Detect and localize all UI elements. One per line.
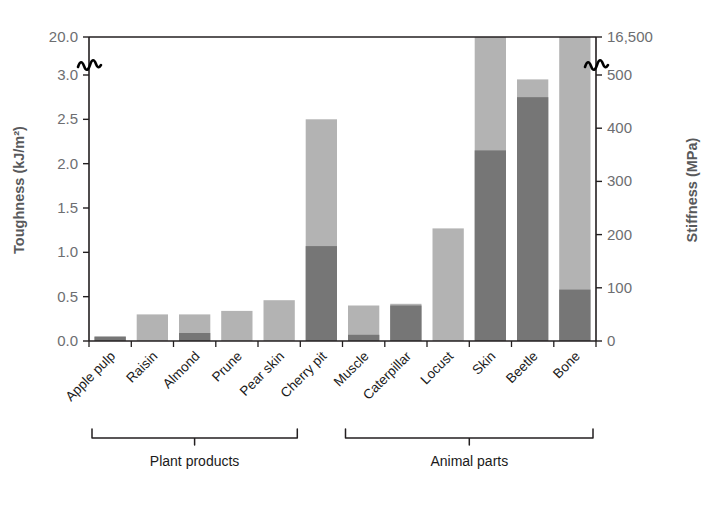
bar-toughness: [559, 290, 590, 341]
y-axis-tick-label: 2.5: [57, 110, 78, 127]
y-axis-tick-label: 0.0: [57, 332, 78, 349]
y2-axis-tick-label: 300: [607, 172, 632, 189]
y-axis-label: Toughness (kJ/m²): [11, 126, 27, 254]
bar-stiffness: [221, 311, 252, 341]
group-label: Plant products: [150, 453, 240, 469]
bar-toughness: [306, 246, 337, 341]
bar-toughness: [517, 97, 548, 341]
bar-toughness: [348, 335, 379, 341]
y-axis-tick-label: 3.0: [57, 66, 78, 83]
y2-axis-tick-label: 200: [607, 226, 632, 243]
y-axis-tick-label: 1.5: [57, 199, 78, 216]
bar-stiffness: [433, 228, 464, 341]
group-label: Animal parts: [430, 453, 508, 469]
bar-stiffness: [137, 314, 168, 341]
bar-toughness: [179, 333, 210, 341]
bar-toughness: [390, 306, 421, 342]
y-axis-tick-label: 20.0: [49, 28, 78, 45]
bar-stiffness: [264, 300, 295, 341]
y-axis-tick-label: 2.0: [57, 155, 78, 172]
y-axis-tick-label: 0.5: [57, 288, 78, 305]
y-axis-tick-label: 1.0: [57, 243, 78, 260]
y2-axis-tick-label: 400: [607, 119, 632, 136]
bar-chart: 0.00.51.01.52.02.53.020.0010020030040050…: [0, 0, 718, 506]
y2-axis-tick-label: 16,500: [607, 28, 653, 45]
chart-container: 0.00.51.01.52.02.53.020.0010020030040050…: [0, 0, 718, 506]
y2-axis-label: Stiffness (MPa): [684, 137, 700, 242]
bar-toughness: [475, 150, 506, 341]
y2-axis-tick-label: 0: [607, 332, 615, 349]
y2-axis-tick-label: 100: [607, 279, 632, 296]
y2-axis-tick-label: 500: [607, 66, 632, 83]
